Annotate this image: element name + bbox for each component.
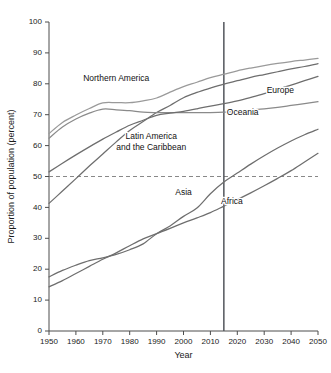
chart-canvas: 0102030405060708090100 19501960197019801…: [0, 0, 331, 373]
y-tick-label: 10: [33, 295, 42, 304]
x-tick-label: 1990: [148, 337, 166, 346]
series-label-asia: Asia: [175, 187, 192, 197]
x-axis-title: Year: [174, 350, 192, 360]
series-label-oceania: Oceania: [227, 107, 259, 117]
x-tick-label: 1980: [121, 337, 139, 346]
y-tick-label: 100: [29, 17, 43, 26]
y-tick-label: 50: [33, 172, 42, 181]
x-tick-label: 2000: [175, 337, 193, 346]
x-tick-label: 1970: [94, 337, 112, 346]
x-tick-label: 1960: [67, 337, 85, 346]
y-axis-title: Proportion of population (percent): [6, 109, 16, 243]
series-label-europe: Europe: [267, 85, 295, 95]
y-tick-label: 80: [33, 79, 42, 88]
y-tick-label: 60: [33, 141, 42, 150]
y-tick-label: 20: [33, 264, 42, 273]
chart-background: [0, 0, 331, 373]
y-tick-label: 30: [33, 233, 42, 242]
x-tick-label: 2040: [282, 337, 300, 346]
x-tick-label: 1950: [40, 337, 58, 346]
series-label-northern-america: Northern America: [83, 73, 149, 83]
x-tick-label: 2050: [309, 337, 327, 346]
series-label-africa: Africa: [221, 196, 243, 206]
y-tick-label: 90: [33, 48, 42, 57]
x-tick-label: 2020: [228, 337, 246, 346]
x-tick-label: 2030: [255, 337, 273, 346]
y-tick-label: 0: [38, 326, 43, 335]
population-urbanization-line-chart: 0102030405060708090100 19501960197019801…: [0, 0, 331, 373]
y-tick-label: 40: [33, 203, 42, 212]
y-tick-label: 70: [33, 110, 42, 119]
series-label-latin-america-and-the-caribbean: Latin Americaand the Caribbean: [116, 131, 186, 152]
x-tick-label: 2010: [202, 337, 220, 346]
